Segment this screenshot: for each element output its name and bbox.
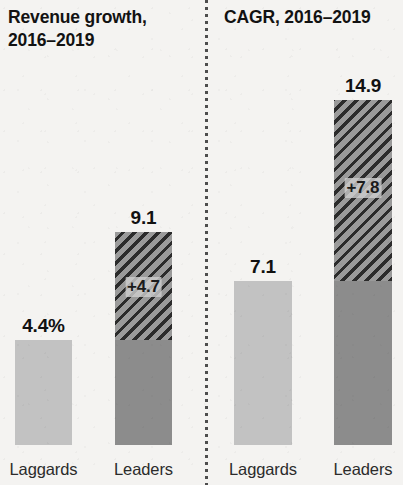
bar-value-laggards-revenue: 4.4% [22,315,65,337]
category-label-laggards-revenue: Laggards [9,460,77,479]
bar-leaders-revenue[interactable]: +4.7 9.1 [115,232,172,445]
category-label-leaders-revenue: Leaders [114,460,173,479]
category-label-laggards-cagr: Laggards [229,460,297,479]
bar-laggards-cagr[interactable]: 7.1 [234,281,292,445]
bar-leaders-cagr[interactable]: +7.8 14.9 [334,100,392,445]
increment-label-leaders-revenue: +4.7 [125,277,162,297]
bar-value-laggards-cagr: 7.1 [250,256,276,278]
bar-segment-base [115,340,172,445]
bar-laggards-revenue[interactable]: 4.4% [15,340,72,445]
bar-group-leaders-cagr[interactable]: +7.8 14.9 Leaders [334,0,392,485]
bar-segment-base [334,281,392,445]
plot-area-cagr: 7.1 Laggards +7.8 14.9 Leaders [206,0,403,485]
panel-divider-dotted [205,0,208,485]
plot-area-revenue-growth: 4.4% Laggards +4.7 9.1 Leaders [0,0,206,485]
bar-group-laggards-cagr[interactable]: 7.1 Laggards [234,0,292,485]
bar-group-laggards-revenue[interactable]: 4.4% Laggards [15,0,72,485]
bar-segment-base [15,340,72,445]
bar-segment-base [234,281,292,445]
bar-value-leaders-cagr: 14.9 [345,75,381,97]
chart-panels: Revenue growth, 2016–2019 4.4% Laggards … [0,0,403,485]
bar-group-leaders-revenue[interactable]: +4.7 9.1 Leaders [115,0,172,485]
panel-revenue-growth: Revenue growth, 2016–2019 4.4% Laggards … [0,0,206,485]
bar-value-leaders-revenue: 9.1 [131,207,157,229]
category-label-leaders-cagr: Leaders [334,460,393,479]
panel-cagr: CAGR, 2016–2019 7.1 Laggards +7.8 14.9 L… [206,0,403,485]
increment-label-leaders-cagr: +7.8 [345,178,382,198]
